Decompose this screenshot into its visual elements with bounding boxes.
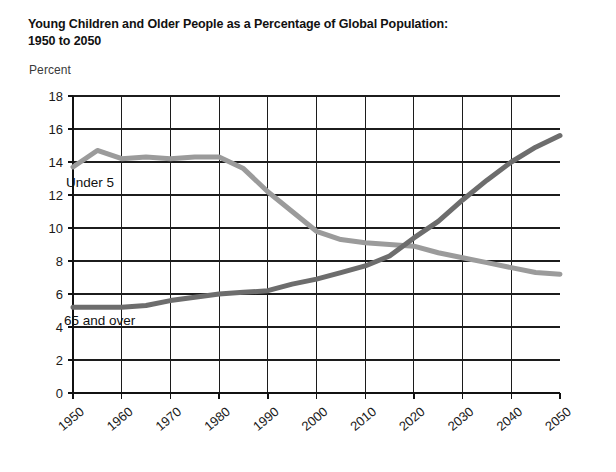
- y-axis-tick-label: 12: [49, 188, 63, 203]
- x-axis-tick-labels: 1950196019701980199020002010202020302040…: [55, 404, 574, 434]
- y-axis-tick-label: 8: [56, 254, 63, 269]
- x-axis-tick-label: 1990: [250, 404, 282, 434]
- y-axis-tick-labels: 024681012141618: [49, 89, 63, 401]
- y-axis-tick-label: 0: [56, 386, 63, 401]
- y-axis-tick-label: 2: [56, 353, 63, 368]
- y-axis-tick-label: 18: [49, 89, 63, 104]
- gridlines: [73, 96, 560, 393]
- x-axis-tick-label: 1960: [104, 404, 136, 434]
- x-axis-tick-label: 2050: [542, 404, 574, 434]
- x-axis-tick-label: 1950: [55, 404, 87, 434]
- series-label-under-5: Under 5: [66, 175, 114, 190]
- y-axis-tick-label: 14: [49, 155, 63, 170]
- y-axis-tick-label: 6: [56, 287, 63, 302]
- x-axis-tick-label: 2000: [299, 404, 331, 434]
- x-axis-tick-label: 1980: [201, 404, 233, 434]
- chart-figure: Young Children and Older People as a Per…: [0, 0, 616, 472]
- x-axis-tick-label: 2040: [493, 404, 525, 434]
- x-axis-tick-label: 2030: [445, 404, 477, 434]
- x-axis-tick-label: 2020: [396, 404, 428, 434]
- tickmarks: [68, 96, 560, 399]
- y-axis-tick-label: 16: [49, 122, 63, 137]
- y-axis-tick-label: 4: [56, 320, 63, 335]
- x-axis-tick-label: 1970: [153, 404, 185, 434]
- x-axis-tick-label: 2010: [347, 404, 379, 434]
- line-chart-plot: 024681012141618 195019601970198019902000…: [0, 0, 616, 472]
- series-label-65-and-over: 65 and over: [64, 313, 136, 328]
- y-axis-tick-label: 10: [49, 221, 63, 236]
